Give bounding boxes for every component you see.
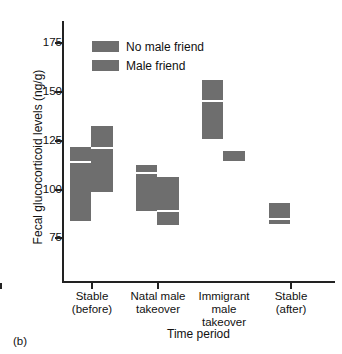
x-tick-mark-1 [91,283,93,289]
bar-no-male-friend-natal-male-takeover [136,165,157,211]
y-axis-title: Fecal glucocorticoid levels (ng/g) [31,27,45,287]
x-tick-mark-2 [157,283,159,289]
chart-figure: 175 150 125 100 75 Fecal glucocorticoid … [0,0,342,354]
median-line [136,172,157,174]
bar-no-male-friend-immigrant-male-takeover [202,80,223,139]
legend: No male friend Male friend [92,38,204,76]
y-tick-mark-75 [55,237,62,239]
bar-male-friend-immigrant-male-takeover [223,151,245,161]
y-axis-line [62,21,64,283]
panel-tag: (b) [13,335,27,347]
x-category-label-stable-after: Stable (after) [248,290,334,316]
x-axis-title: Time period [62,327,335,341]
y-tick-mark-175 [55,42,62,44]
legend-label-male-friend: Male friend [126,59,185,73]
legend-swatch-no-male-friend [92,41,119,52]
label-line: Stable [248,290,334,303]
median-line [269,218,290,220]
median-line [157,210,179,212]
median-line [91,147,113,149]
legend-item-no-male-friend: No male friend [92,38,204,55]
median-line [70,161,91,163]
median-line [202,100,223,102]
label-line: (after) [248,303,334,316]
legend-label-no-male-friend: No male friend [126,40,204,54]
label-line: takeover [181,316,267,329]
legend-swatch-male-friend [92,60,119,71]
bar-male-friend-stable-before [91,126,113,192]
y-tick-mark-100 [55,189,62,191]
bar-no-male-friend-stable-after [269,203,290,224]
bar-no-male-friend-stable-before [70,147,91,221]
bar-male-friend-natal-male-takeover [157,177,179,225]
x-tick-mark-3 [0,283,2,289]
x-axis-line [62,281,335,283]
y-tick-mark-150 [55,91,62,93]
legend-item-male-friend: Male friend [92,57,204,74]
y-tick-mark-125 [55,140,62,142]
x-tick-mark-4 [290,283,292,289]
